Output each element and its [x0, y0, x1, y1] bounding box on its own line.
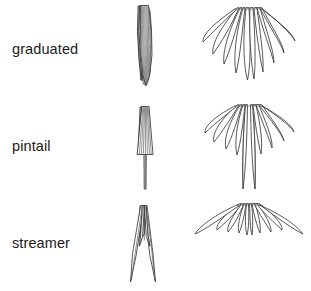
row-label-streamer: streamer [12, 235, 70, 251]
graduated-tail-closed [108, 0, 188, 97]
streamer-tail-closed [108, 194, 188, 291]
tail-shapes-figure: graduated [0, 0, 311, 291]
row-label-pintail: pintail [12, 138, 51, 154]
figure-row-pintail: pintail [0, 97, 311, 194]
row-label-graduated: graduated [12, 41, 78, 57]
streamer-tail-spread [188, 194, 311, 291]
graduated-tail-spread [188, 0, 311, 97]
pintail-tail-spread [188, 97, 311, 194]
figure-row-streamer: streamer [0, 194, 311, 291]
pintail-tail-closed [108, 97, 188, 194]
figure-row-graduated: graduated [0, 0, 311, 97]
